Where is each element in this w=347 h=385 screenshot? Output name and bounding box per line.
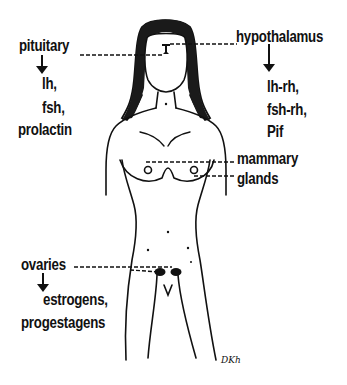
right-nipple [191,167,198,174]
hypothalamus-arrow-head [263,64,275,72]
hypothalamus-hormone-lh-rh: lh-rh, [267,77,299,96]
ovaries-hormone-estrogens: estrogens, [43,290,108,309]
diagram-canvas: pituitary lh, fsh, prolactin hypothalamu… [0,0,347,385]
right-ovary [171,268,182,276]
mammary-label-line2: glands [237,169,278,188]
neck [156,92,176,108]
inner-legs [148,275,196,358]
pituitary-label: pituitary [19,36,69,55]
right-shoulder-arm [176,108,226,195]
mammary-label-line1: mammary [237,149,298,168]
breasts [120,160,214,181]
hypothalamus-label: hypothalamus [236,27,323,46]
collarbones [140,132,190,146]
artist-signature: DKh [221,355,241,365]
ovaries-hormone-progestagens: progestagens [21,313,105,332]
hypothalamus-hormone-pif: Pif [267,122,283,141]
face-outline [145,34,187,93]
left-nipple [145,167,152,174]
torso-left [122,160,136,360]
pituitary-arrow-head [36,66,48,74]
pituitary-hormone-prolactin: prolactin [18,120,72,139]
torso-right [196,160,216,360]
ovaries-label: ovaries [21,255,66,274]
hypothalamus-hormone-fsh-rh: fsh-rh, [267,100,307,119]
pituitary-hormone-fsh: fsh, [42,98,65,117]
pituitary-hormone-lh: lh, [42,74,57,93]
